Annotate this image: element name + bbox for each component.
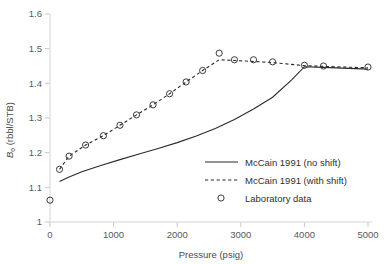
- series-line-with-shift: [60, 60, 368, 170]
- x-tick-label: 5000: [357, 229, 378, 240]
- data-point-marker: [150, 102, 156, 108]
- y-tick-label: 1.1: [29, 182, 42, 193]
- legend-swatch-marker: [218, 195, 224, 201]
- chart-container: 11.11.21.31.41.51.6 01000200030004000500…: [0, 0, 388, 264]
- data-point-marker: [216, 50, 222, 56]
- data-point-marker: [183, 79, 189, 85]
- y-tick-label: 1.2: [29, 147, 42, 158]
- legend-label: Laboratory data: [245, 193, 312, 204]
- y-tick-label: 1.5: [29, 43, 42, 54]
- x-tick-label: 3000: [230, 229, 251, 240]
- x-tick-label: 0: [47, 229, 52, 240]
- data-point-marker: [365, 64, 371, 70]
- y-tick-label: 1.3: [29, 112, 42, 123]
- chart-legend: McCain 1991 (no shift)McCain 1991 (with …: [205, 157, 347, 204]
- x-axis-title: Pressure (psig): [179, 249, 243, 260]
- y-tick-label: 1: [37, 216, 42, 227]
- y-tick-label: 1.4: [29, 78, 42, 89]
- x-tick-label: 4000: [294, 229, 315, 240]
- legend-label: McCain 1991 (no shift): [245, 157, 341, 168]
- y-axis-ticks: 11.11.21.31.41.51.6: [29, 8, 50, 227]
- x-tick-label: 1000: [103, 229, 124, 240]
- y-tick-label: 1.6: [29, 8, 42, 19]
- legend-label: McCain 1991 (with shift): [245, 175, 347, 186]
- chart-svg: 11.11.21.31.41.51.6 01000200030004000500…: [0, 0, 388, 264]
- data-point-marker: [270, 59, 276, 65]
- x-axis-ticks: 010002000300040005000: [47, 222, 378, 240]
- data-point-marker: [66, 153, 72, 159]
- y-axis-title: Bo (rbbl/STB): [4, 102, 16, 158]
- x-tick-label: 2000: [167, 229, 188, 240]
- data-point-marker: [100, 133, 106, 139]
- data-point-marker: [231, 57, 237, 63]
